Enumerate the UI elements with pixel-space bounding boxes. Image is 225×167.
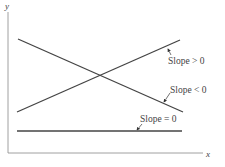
label-positive-slope: Slope > 0 — [168, 56, 205, 66]
label-negative-slope: Slope < 0 — [170, 85, 207, 95]
arrow-positive — [168, 49, 171, 55]
x-axis-label: x — [205, 149, 210, 159]
arrow-zero — [137, 124, 142, 130]
line-positive-slope — [17, 40, 180, 112]
label-zero-slope: Slope = 0 — [140, 114, 177, 124]
slope-chart: y x Slope > 0 Slope < 0 Slope = 0 — [0, 0, 225, 167]
y-axis-label: y — [4, 1, 9, 11]
